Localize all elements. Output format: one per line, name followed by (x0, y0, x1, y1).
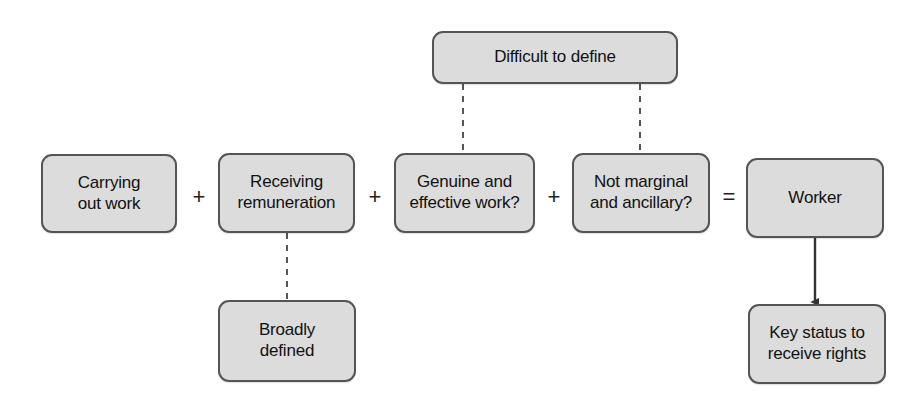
operator-plus-3: + (544, 186, 564, 208)
node-label-genuine-and-effective-work: Genuine and effective work? (403, 172, 525, 213)
node-carrying-out-work: Carrying out work (41, 154, 177, 233)
node-label-receiving-remuneration: Receiving remuneration (232, 172, 342, 213)
operator-plus-1: + (189, 186, 209, 208)
operator-plus-2: + (365, 186, 385, 208)
node-label-broadly-defined: Broadly defined (253, 320, 321, 361)
node-genuine-and-effective-work: Genuine and effective work? (394, 153, 535, 233)
flow-diagram: Difficult to defineCarrying out workRece… (0, 0, 922, 412)
node-key-status-to-receive-rights: Key status to receive rights (748, 304, 886, 384)
node-not-marginal-and-ancillary: Not marginal and ancillary? (572, 153, 710, 233)
node-broadly-defined: Broadly defined (218, 300, 356, 382)
node-receiving-remuneration: Receiving remuneration (218, 153, 355, 233)
node-label-carrying-out-work: Carrying out work (72, 173, 147, 214)
operator-equals-1: = (719, 186, 739, 208)
node-label-difficult-to-define: Difficult to define (488, 47, 622, 68)
node-label-worker: Worker (782, 188, 847, 209)
node-difficult-to-define: Difficult to define (432, 31, 678, 84)
node-label-not-marginal-and-ancillary: Not marginal and ancillary? (584, 172, 698, 213)
node-worker: Worker (746, 158, 884, 238)
node-label-key-status-to-receive-rights: Key status to receive rights (762, 323, 872, 364)
